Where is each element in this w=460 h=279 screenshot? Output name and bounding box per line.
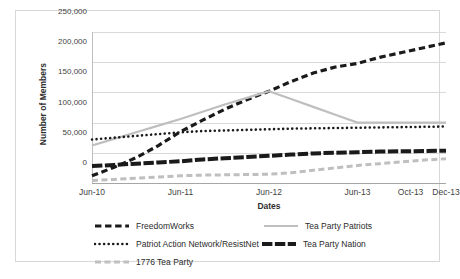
y-tick-label: 0 bbox=[83, 158, 87, 167]
y-tick-label: 150,000 bbox=[58, 67, 87, 76]
x-tick-label: Jun-11 bbox=[168, 187, 193, 197]
y-tick-label: 200,000 bbox=[58, 37, 87, 46]
y-tick-label: 50,000 bbox=[63, 127, 87, 136]
legend-label: Tea Party Patriots bbox=[305, 221, 372, 231]
legend-label: Tea Party Nation bbox=[303, 239, 366, 249]
x-tick-label: Oct-13 bbox=[398, 187, 424, 197]
x-tick-label: Jun-12 bbox=[256, 187, 282, 197]
legend-label: Patriot Action Network/ResistNet bbox=[136, 239, 259, 249]
y-tick-label: 100,000 bbox=[58, 97, 87, 106]
y-axis-tick-labels: 250,000200,000150,000100,00050,0000 bbox=[16, 11, 92, 162]
x-tick-label: Jun-13 bbox=[345, 187, 371, 197]
legend-swatch-tea-party-patriots bbox=[263, 221, 299, 231]
legend-item-freedomworks[interactable]: FreedomWorks bbox=[94, 221, 194, 231]
legend-item-patriot-action-network[interactable]: Patriot Action Network/ResistNet bbox=[94, 239, 259, 249]
data-series-layer bbox=[92, 32, 446, 183]
gridline bbox=[92, 183, 446, 184]
x-axis-title: Dates bbox=[92, 201, 446, 211]
y-tick-label: 250,000 bbox=[58, 7, 87, 16]
legend-item-tea-party-nation[interactable]: Tea Party Nation bbox=[261, 239, 366, 249]
legend-swatch-patriot-action-network bbox=[94, 239, 130, 249]
legend-item-1776-tea-party[interactable]: 1776 Tea Party bbox=[94, 257, 193, 267]
legend-label: 1776 Tea Party bbox=[136, 257, 193, 267]
legend-item-tea-party-patriots[interactable]: Tea Party Patriots bbox=[263, 221, 372, 231]
series-line-tea-party-nation bbox=[92, 151, 446, 166]
legend-label: FreedomWorks bbox=[136, 221, 194, 231]
x-tick-label: Jun-10 bbox=[79, 187, 105, 197]
legend-swatch-freedomworks bbox=[94, 221, 130, 231]
plot-area bbox=[92, 32, 446, 183]
chart-card: Number of Members Dates 250,000200,00015… bbox=[15, 10, 440, 262]
series-line-tea-party-patriots bbox=[92, 91, 446, 145]
legend-swatch-1776-tea-party bbox=[94, 257, 130, 267]
legend-swatch-tea-party-nation bbox=[261, 239, 297, 249]
chart-legend: FreedomWorksTea Party PatriotsPatriot Ac… bbox=[31, 217, 456, 273]
x-tick-label: Dec-13 bbox=[432, 187, 459, 197]
